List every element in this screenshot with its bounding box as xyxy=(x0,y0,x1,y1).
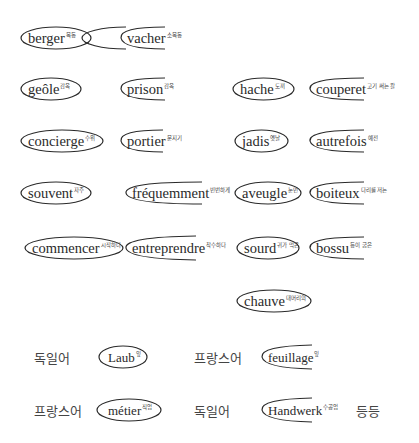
closed-oval-word: concierge수위 xyxy=(20,129,104,153)
closed-oval-word: métier직업 xyxy=(96,398,162,422)
closed-oval-word: chauve대머리의 xyxy=(236,289,312,313)
open-oval-word: bossu등이 굽은 xyxy=(308,236,398,260)
language-label: 프랑스어 xyxy=(194,345,242,369)
open-oval-word: couperet고기 써는 칼 xyxy=(308,77,416,101)
language-label: 독일어 xyxy=(194,398,230,422)
closed-oval-word: jadis옛날 xyxy=(234,129,289,153)
closed-oval-word: souvent자주 xyxy=(20,181,92,205)
closed-oval-word: commencer시작하다 xyxy=(24,236,124,260)
open-oval-word: feuillage잎 xyxy=(260,345,340,369)
open-oval-word: prison감옥 xyxy=(119,77,189,101)
open-oval-word: Handwerk수공업 xyxy=(260,398,350,422)
open-oval-word: boiteux다리를 저는 xyxy=(308,181,418,205)
etc-label: 등등 xyxy=(356,398,380,422)
open-oval-word: fréquemment빈번하게 xyxy=(124,181,236,205)
closed-oval-word: Laub잎 xyxy=(98,345,148,369)
open-oval-word: vacher소목동 xyxy=(119,26,199,50)
open-oval-word: portier문지기 xyxy=(119,129,199,153)
closed-oval-word: sourd귀가 먹은 xyxy=(236,236,300,260)
closed-oval-word: geôle감옥 xyxy=(20,77,82,101)
closed-oval-word: berger목동 xyxy=(20,26,92,50)
closed-oval-word: hache도끼 xyxy=(232,77,295,101)
open-oval-word: autrefois예전 xyxy=(308,129,398,153)
closed-oval-word: aveugle눈먼 xyxy=(234,181,302,205)
language-label: 독일어 xyxy=(34,345,70,369)
language-label: 프랑스어 xyxy=(34,398,82,422)
open-oval-word: entreprendre착수하다 xyxy=(124,236,234,260)
